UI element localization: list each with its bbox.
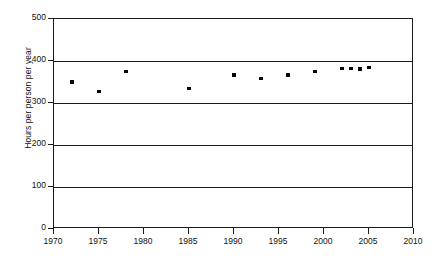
data-point <box>358 67 361 70</box>
data-point <box>367 66 370 69</box>
data-point <box>124 70 127 73</box>
y-tick-label-400: 400 <box>6 55 46 64</box>
y-tick-label-500: 500 <box>6 13 46 22</box>
gridline-y-100 <box>54 187 412 188</box>
x-tick-1995 <box>278 228 279 234</box>
x-tick-label-1970: 1970 <box>33 236 73 246</box>
x-tick-label-1980: 1980 <box>123 236 163 246</box>
gridline-y-200 <box>54 145 412 146</box>
y-tick-label-0: 0 <box>6 223 46 232</box>
x-tick-label-2010: 2010 <box>393 236 433 246</box>
data-point <box>70 80 73 83</box>
x-tick-2010 <box>413 228 414 234</box>
x-tick-label-2005: 2005 <box>348 236 388 246</box>
x-tick-label-1995: 1995 <box>258 236 298 246</box>
x-tick-1985 <box>188 228 189 234</box>
x-tick-label-2000: 2000 <box>303 236 343 246</box>
data-point <box>313 70 316 73</box>
y-tick-label-300: 300 <box>6 97 46 106</box>
x-tick-1990 <box>233 228 234 234</box>
x-tick-label-1975: 1975 <box>78 236 118 246</box>
data-point <box>349 67 352 70</box>
y-tick-label-100: 100 <box>6 181 46 190</box>
data-point <box>187 87 190 90</box>
x-tick-1970 <box>53 228 54 234</box>
gridline-y-400 <box>54 61 412 62</box>
plot-area <box>53 18 413 228</box>
x-tick-1980 <box>143 228 144 234</box>
data-point <box>232 73 235 76</box>
data-point <box>97 90 100 93</box>
data-point <box>340 67 343 70</box>
x-tick-1975 <box>98 228 99 234</box>
y-tick-label-200: 200 <box>6 139 46 148</box>
x-tick-label-1990: 1990 <box>213 236 253 246</box>
data-point <box>286 73 289 76</box>
scatter-chart: Hours per person per year 01002003004005… <box>0 0 444 265</box>
data-point <box>259 77 262 80</box>
gridline-y-300 <box>54 103 412 104</box>
x-tick-label-1985: 1985 <box>168 236 208 246</box>
x-tick-2005 <box>368 228 369 234</box>
x-tick-2000 <box>323 228 324 234</box>
